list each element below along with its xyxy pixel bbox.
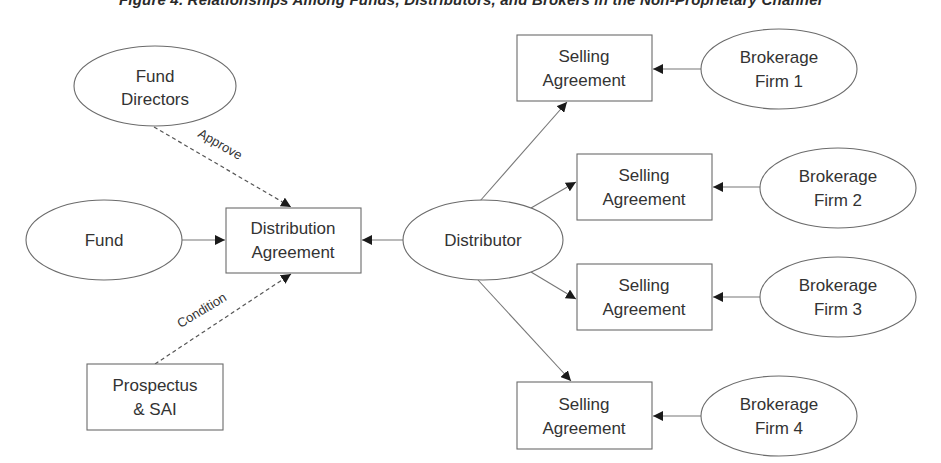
node-selling-agreement-1: Selling Agreement (517, 35, 652, 101)
node-fund-directors: Fund Directors (74, 46, 236, 126)
node-selling-agreement-3: Selling Agreement (577, 264, 712, 330)
svg-text:Fund: Fund (85, 231, 124, 250)
svg-text:Distributor: Distributor (444, 231, 522, 250)
svg-text:Fund: Fund (136, 67, 175, 86)
diagram-canvas: Figure 4. Relationships Among Funds, Dis… (0, 0, 941, 463)
svg-text:Brokerage: Brokerage (799, 276, 877, 295)
node-distributor: Distributor (403, 200, 563, 280)
distributor-to-selling-1-edge (480, 102, 567, 201)
svg-text:Distribution: Distribution (250, 219, 335, 238)
svg-text:Firm 4: Firm 4 (755, 419, 803, 438)
svg-text:Brokerage: Brokerage (799, 167, 877, 186)
node-brokerage-firm-4: Brokerage Firm 4 (701, 376, 857, 456)
condition-label: Condition (174, 290, 229, 331)
svg-text:Selling: Selling (558, 47, 609, 66)
distributor-to-selling-2-edge (531, 182, 576, 208)
svg-text:Selling: Selling (618, 166, 669, 185)
svg-text:Brokerage: Brokerage (740, 395, 818, 414)
distributor-to-selling-3-edge (531, 272, 576, 299)
relationship-diagram: Approve Condition Fund Directors Fund Di… (0, 0, 941, 463)
node-selling-agreement-4: Selling Agreement (517, 382, 652, 449)
svg-text:Agreement: Agreement (542, 419, 625, 438)
svg-text:Agreement: Agreement (602, 190, 685, 209)
node-prospectus-sai: Prospectus & SAI (87, 364, 223, 430)
node-brokerage-firm-3: Brokerage Firm 3 (760, 257, 916, 337)
figure-title: Figure 4. Relationships Among Funds, Dis… (0, 0, 941, 8)
svg-text:Agreement: Agreement (251, 243, 334, 262)
svg-text:Selling: Selling (558, 395, 609, 414)
node-brokerage-firm-2: Brokerage Firm 2 (760, 148, 916, 228)
svg-text:Prospectus: Prospectus (112, 376, 197, 395)
svg-text:Firm 2: Firm 2 (814, 191, 862, 210)
distributor-to-selling-4-edge (478, 280, 571, 381)
svg-text:Agreement: Agreement (602, 300, 685, 319)
approve-label: Approve (196, 126, 245, 163)
node-brokerage-firm-1: Brokerage Firm 1 (701, 29, 857, 109)
svg-text:Brokerage: Brokerage (740, 48, 818, 67)
node-selling-agreement-2: Selling Agreement (577, 154, 712, 220)
svg-text:Firm 3: Firm 3 (814, 300, 862, 319)
svg-text:Directors: Directors (121, 90, 189, 109)
node-fund: Fund (26, 200, 182, 280)
svg-text:Agreement: Agreement (542, 71, 625, 90)
svg-text:& SAI: & SAI (133, 400, 176, 419)
svg-text:Firm 1: Firm 1 (755, 72, 803, 91)
node-distribution-agreement: Distribution Agreement (226, 208, 361, 273)
svg-text:Selling: Selling (618, 276, 669, 295)
